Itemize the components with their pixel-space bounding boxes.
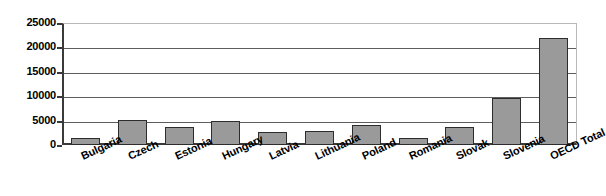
bar-slot [530, 23, 577, 145]
bar[interactable] [492, 98, 521, 145]
bar[interactable] [211, 121, 240, 145]
x-axis-slot: Romania [390, 147, 437, 196]
y-axis-tick-label: 0 [4, 139, 56, 150]
x-axis-slot: Poland [343, 147, 390, 196]
x-axis-slot: Estonia [156, 147, 203, 196]
bar-slot [249, 23, 296, 145]
bar-slot [296, 23, 343, 145]
x-axis-slot: Slovenia [483, 147, 530, 196]
bar-slot [437, 23, 484, 145]
x-axis-slot: Hungary [202, 147, 249, 196]
bar-slot [390, 23, 437, 145]
y-axis-labels: 0500010000150002000025000 [0, 0, 56, 196]
y-axis-tick-label: 25000 [4, 17, 56, 28]
bars-container [62, 23, 577, 145]
y-axis-tick-label: 15000 [4, 66, 56, 77]
y-axis-tick-label: 20000 [4, 41, 56, 52]
bar-slot [62, 23, 109, 145]
bar-slot [202, 23, 249, 145]
y-axis-tick-label: 5000 [4, 115, 56, 126]
bar[interactable] [539, 38, 568, 145]
bar-slot [343, 23, 390, 145]
y-axis-tick-label: 10000 [4, 90, 56, 101]
bar-slot [156, 23, 203, 145]
bar-slot [483, 23, 530, 145]
x-axis-slot: Slovak [437, 147, 484, 196]
x-axis-slot: Czech [109, 147, 156, 196]
x-axis-slot: Lithuania [296, 147, 343, 196]
x-axis-slot: OECD Total [530, 147, 577, 196]
x-axis-labels: BulgariaCzechEstoniaHungaryLatviaLithuan… [62, 147, 577, 196]
x-axis-slot: Latvia [249, 147, 296, 196]
bar-slot [109, 23, 156, 145]
x-axis-slot: Bulgaria [62, 147, 109, 196]
